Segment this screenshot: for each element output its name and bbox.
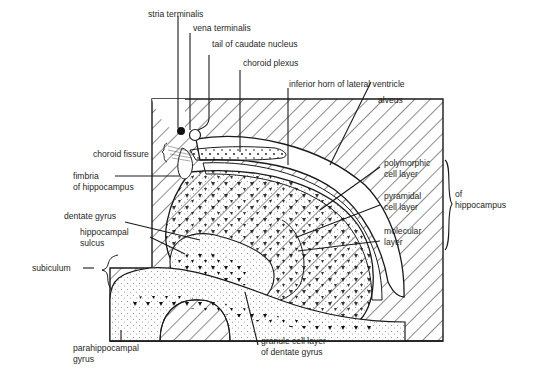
label-fimbria-2: of hippocampus: [73, 182, 134, 193]
label-parahippocampal-2: gyrus: [73, 354, 94, 365]
label-choroid-plexus: choroid plexus: [243, 58, 298, 69]
vena-terminalis-circle: [190, 130, 201, 141]
label-hippocampal-1: hippocampal: [80, 227, 129, 238]
label-hippocampus: hippocampus: [455, 200, 506, 211]
label-stria-terminalis: stria terminalis: [148, 9, 203, 20]
label-pyramidal-1: pyramidal: [384, 191, 421, 202]
label-dentate-gyrus: dentate gyrus: [64, 211, 116, 222]
label-granule-1: granule cell layer: [261, 336, 326, 347]
label-granule-2: of dentate gyrus: [261, 347, 323, 358]
label-subiculum: subiculum: [32, 263, 71, 274]
label-polymorphic-1: polymorphic: [384, 158, 430, 169]
label-inferior-horn: inferior horn of lateral ventricle: [289, 79, 405, 90]
label-pyramidal-2: cell layer: [384, 202, 418, 213]
label-parahippocampal-1: parahippocampal: [73, 343, 139, 354]
label-choroid-fissure: choroid fissure: [93, 149, 149, 160]
choroid-plexus: [190, 147, 286, 160]
label-alveus: alveus: [378, 95, 403, 106]
label-vena-terminalis: vena terminalis: [193, 23, 251, 34]
label-hippocampal-2: sulcus: [80, 238, 104, 249]
label-molecular-2: layer: [384, 237, 403, 248]
label-tail-caudate: tail of caudate nucleus: [212, 39, 298, 50]
label-molecular-1: molecular: [384, 226, 421, 237]
label-of: of: [455, 189, 462, 200]
stria-terminalis-dot: [177, 127, 185, 135]
label-fimbria-1: fimbria: [73, 171, 99, 182]
hippocampus-brace: [445, 160, 452, 250]
label-polymorphic-2: cell layer: [384, 169, 418, 180]
